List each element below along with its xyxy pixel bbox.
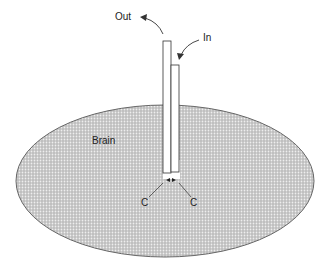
brain-label: Brain	[92, 136, 115, 146]
c-left-label: C	[141, 198, 148, 208]
in-label: In	[203, 33, 211, 43]
c-right-label: C	[190, 198, 197, 208]
in-arrow-icon	[181, 40, 199, 55]
in-arrowhead-icon	[177, 53, 184, 60]
inlet-tube	[171, 65, 179, 172]
out-arrowhead-icon	[140, 14, 147, 21]
outlet-tube	[163, 41, 171, 173]
diagram-graphics	[0, 0, 329, 267]
out-label: Out	[115, 12, 131, 22]
microdialysis-diagram: Out In Brain C C	[0, 0, 329, 267]
out-arrow-icon	[145, 18, 163, 34]
